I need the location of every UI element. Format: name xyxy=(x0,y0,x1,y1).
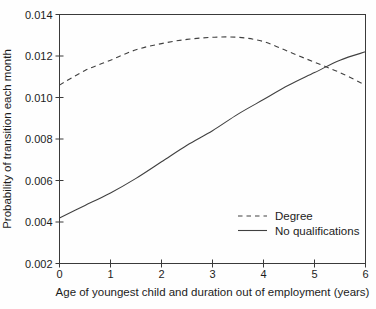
y-tick-label: 0.012 xyxy=(25,50,53,62)
y-tick-label: 0.004 xyxy=(25,216,53,228)
x-tick-label: 5 xyxy=(311,268,317,280)
y-tick-label: 0.014 xyxy=(25,9,53,21)
y-axis-title: Probability of transition each month xyxy=(1,49,13,229)
chart-canvas: 01234560.0020.0040.0060.0080.0100.0120.0… xyxy=(0,0,376,309)
x-tick-label: 1 xyxy=(107,268,113,280)
x-tick-label: 0 xyxy=(56,268,62,280)
legend-label-degree: Degree xyxy=(275,210,313,222)
x-tick-label: 6 xyxy=(362,268,368,280)
x-tick-label: 3 xyxy=(209,268,215,280)
chart-figure: 01234560.0020.0040.0060.0080.0100.0120.0… xyxy=(0,0,376,309)
series-line-no-qualifications xyxy=(60,52,366,218)
legend-label-no-qualifications: No qualifications xyxy=(275,225,360,237)
series-line-degree xyxy=(60,37,366,85)
y-tick-label: 0.006 xyxy=(25,175,53,187)
y-tick-label: 0.008 xyxy=(25,133,53,145)
y-tick-label: 0.002 xyxy=(25,258,53,270)
x-tick-label: 4 xyxy=(260,268,266,280)
x-tick-label: 2 xyxy=(158,268,164,280)
y-tick-label: 0.010 xyxy=(25,92,53,104)
x-axis-title: Age of youngest child and duration out o… xyxy=(56,286,370,298)
